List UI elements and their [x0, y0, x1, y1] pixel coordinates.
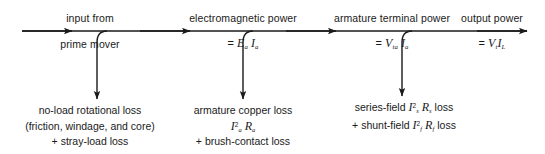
label-electromagnetic-power: electromagnetic power — [189, 12, 297, 26]
subscript-a: a — [252, 125, 255, 132]
formula-armature-terminal-power: =VtaIa — [375, 37, 408, 51]
symbol-V: V — [488, 36, 495, 50]
block-no-load-rotational-loss: no-load rotational loss (friction, winda… — [25, 103, 155, 150]
subscript-f: f — [420, 124, 422, 131]
symbol-E: E — [237, 36, 244, 50]
subscript-s: s — [416, 107, 419, 114]
formula-output-power: =VtIL — [479, 37, 506, 51]
subscript-a: a — [255, 43, 259, 50]
armature-line-1: armature copper loss — [194, 103, 293, 119]
shunt-field-suffix: loss — [437, 119, 456, 131]
symbol-V: V — [385, 36, 392, 50]
block-field-losses: series-fieldI2sRsloss + shunt-fieldI2fRf… — [352, 100, 456, 134]
formula-electromagnetic-power: =EaIa — [227, 37, 258, 51]
equals-sign: = — [375, 37, 382, 49]
subscript-f: f — [432, 124, 434, 131]
no-load-line-1: no-load rotational loss — [25, 103, 155, 119]
subscript-L: L — [502, 43, 506, 50]
no-load-line-3: + stray-load loss — [25, 134, 155, 150]
subscript-a: a — [405, 43, 409, 50]
label-input-from: input from — [66, 12, 114, 26]
equals-sign: = — [479, 37, 486, 49]
symbol-R: R — [422, 100, 429, 114]
label-prime-mover: prime mover — [60, 38, 119, 52]
series-field-suffix: loss — [435, 101, 454, 113]
label-output-power: output power — [461, 12, 523, 26]
shunt-field-line: + shunt-fieldI2fRfloss — [352, 116, 456, 134]
equals-sign: = — [227, 37, 234, 49]
armature-formula: I2aRa — [194, 119, 293, 135]
block-armature-copper-loss: armature copper loss I2aRa + brush-conta… — [194, 103, 293, 150]
subscript-a: a — [238, 125, 241, 132]
subscript-s: s — [429, 107, 432, 114]
subscript-a: a — [244, 43, 248, 50]
shunt-field-prefix: + shunt-field — [352, 119, 410, 131]
label-armature-terminal-power: armature terminal power — [334, 12, 450, 26]
subscript-ta: ta — [392, 43, 398, 50]
series-field-prefix: series-field — [355, 101, 406, 113]
series-field-line: series-fieldI2sRsloss — [352, 100, 456, 116]
power-flow-diagram: input from electromagnetic power armatur… — [0, 0, 545, 154]
armature-line-3: + brush-contact loss — [194, 134, 293, 150]
no-load-line-2: (friction, windage, and core) — [25, 119, 155, 135]
